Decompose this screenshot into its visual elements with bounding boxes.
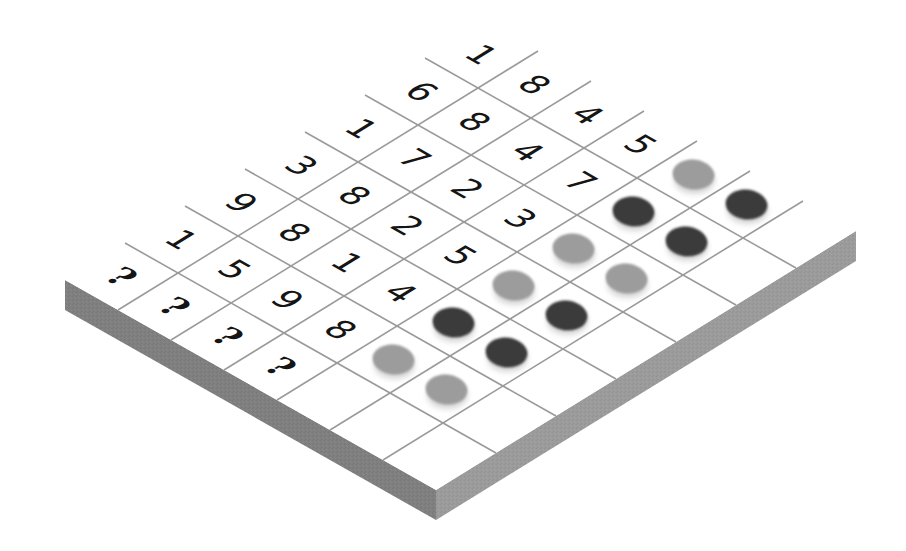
- puzzle-board: 184568471723382598141598????: [0, 0, 906, 551]
